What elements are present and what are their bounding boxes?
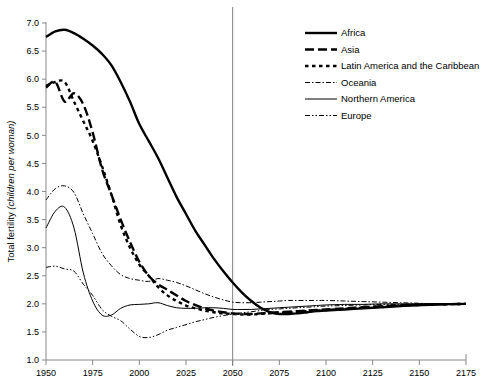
y-tick-label: 2.5 <box>26 271 39 281</box>
chart-plot-area: 1.01.52.02.53.03.54.04.55.05.56.06.57.01… <box>0 0 485 389</box>
x-tick-label: 2075 <box>269 368 289 378</box>
y-tick-label: 5.5 <box>26 102 39 112</box>
y-tick-label: 3.0 <box>26 243 39 253</box>
x-tick-label: 2050 <box>223 368 243 378</box>
fertility-chart: 1.01.52.02.53.03.54.04.55.05.56.06.57.01… <box>0 0 485 389</box>
series-line-oceania <box>46 186 466 304</box>
y-tick-label: 2.0 <box>26 299 39 309</box>
y-tick-label: 6.5 <box>26 46 39 56</box>
legend-label-1[interactable]: Asia <box>341 44 360 55</box>
series-line-northern-america <box>46 206 466 316</box>
y-tick-label: 1.0 <box>26 355 39 365</box>
x-tick-label: 2125 <box>363 368 383 378</box>
x-tick-label: 1975 <box>83 368 103 378</box>
x-tick-label: 2000 <box>129 368 149 378</box>
x-tick-label: 2025 <box>176 368 196 378</box>
legend-label-5[interactable]: Europe <box>341 110 372 121</box>
y-tick-label: 3.5 <box>26 215 39 225</box>
legend-label-2[interactable]: Latin America and the Caribbean <box>341 60 479 71</box>
legend-label-0[interactable]: Africa <box>341 27 366 38</box>
series-line-latin-america-and-the-caribbean <box>46 80 466 314</box>
y-tick-label: 1.5 <box>26 327 39 337</box>
y-tick-label: 5.0 <box>26 131 39 141</box>
x-tick-label: 1950 <box>36 368 56 378</box>
y-tick-label: 7.0 <box>26 18 39 28</box>
series-line-europe <box>46 266 466 338</box>
y-tick-label: 4.0 <box>26 187 39 197</box>
y-axis-title: Total fertility (children per woman) <box>5 120 16 262</box>
y-tick-label: 6.0 <box>26 74 39 84</box>
y-tick-label: 4.5 <box>26 159 39 169</box>
legend-label-3[interactable]: Oceania <box>341 77 377 88</box>
legend-label-4[interactable]: Northern America <box>341 93 416 104</box>
x-tick-label: 2175 <box>456 368 476 378</box>
series-line-asia <box>46 81 466 314</box>
series-line-africa <box>46 30 466 314</box>
x-tick-label: 2100 <box>316 368 336 378</box>
x-tick-label: 2150 <box>409 368 429 378</box>
